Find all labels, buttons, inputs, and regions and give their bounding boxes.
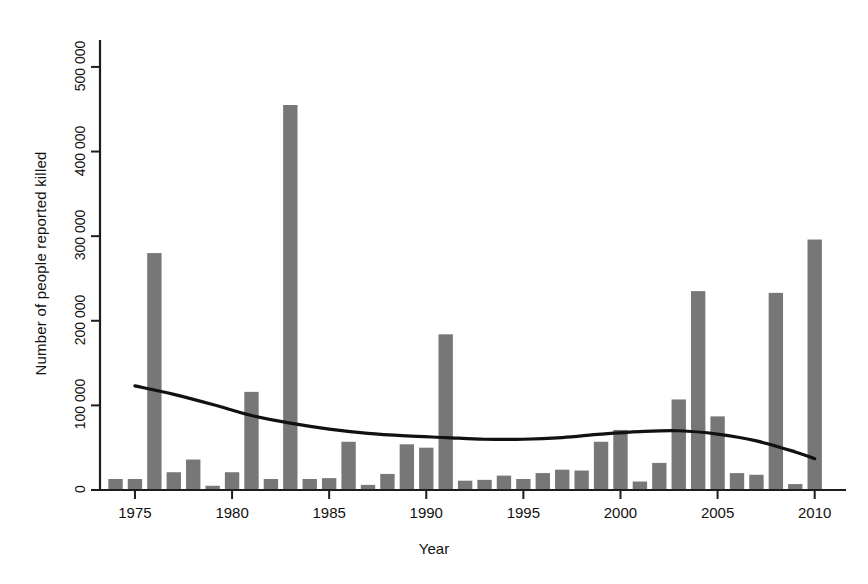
bar-2000 xyxy=(613,430,627,490)
bar-2007 xyxy=(749,475,763,490)
bar-1986 xyxy=(341,442,355,490)
bar-2004 xyxy=(691,291,705,490)
bar-1996 xyxy=(536,473,550,490)
bar-1989 xyxy=(400,444,414,490)
bar-1978 xyxy=(186,460,200,490)
bar-1975 xyxy=(128,479,142,490)
bar-2003 xyxy=(672,399,686,490)
bar-1999 xyxy=(594,442,608,490)
bar-2008 xyxy=(769,293,783,490)
bar-1995 xyxy=(516,479,530,490)
bar-1997 xyxy=(555,470,569,490)
bar-1982 xyxy=(264,479,278,490)
bar-1980 xyxy=(225,472,239,490)
bar-1981 xyxy=(244,392,258,490)
bar-1994 xyxy=(497,476,511,490)
bar-2001 xyxy=(633,482,647,490)
bar-2006 xyxy=(730,473,744,490)
axis-lines xyxy=(91,40,846,499)
bar-1988 xyxy=(380,474,394,490)
bar-1976 xyxy=(147,253,161,490)
bar-1974 xyxy=(108,479,122,490)
bar-1984 xyxy=(303,479,317,490)
bar-1992 xyxy=(458,481,472,490)
bar-2010 xyxy=(808,240,822,490)
bar-1998 xyxy=(574,471,588,490)
bar-1985 xyxy=(322,478,336,490)
bar-2005 xyxy=(710,416,724,490)
bar-1993 xyxy=(477,480,491,490)
bar-1983 xyxy=(283,105,297,490)
chart-figure: Number of people reported killed Year 01… xyxy=(0,0,868,584)
plot-area xyxy=(0,0,868,584)
bar-1977 xyxy=(167,472,181,490)
bar-1991 xyxy=(439,334,453,490)
bar-1990 xyxy=(419,448,433,490)
bar-2002 xyxy=(652,463,666,490)
